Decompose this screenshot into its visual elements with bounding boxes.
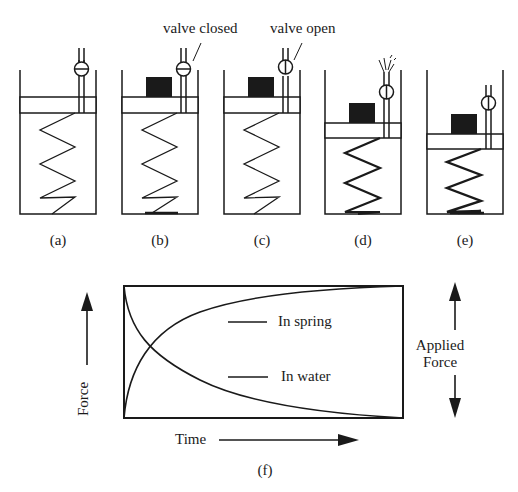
in-water-curve [124,286,403,418]
panel-c-container [224,43,302,214]
spring-icon [447,149,481,213]
spring-icon [345,138,380,214]
spring-icon [142,113,177,213]
in-spring-curve [124,286,403,418]
weight-block [248,77,274,97]
weight-block [451,114,477,134]
panel-b-container [122,43,201,214]
graph-caption: (f) [258,462,273,479]
graph-frame [124,286,403,418]
weight-block [349,103,375,123]
panel-e-container [427,70,503,214]
time-arrow-icon [219,434,359,446]
y-axis-label: Force [75,382,92,416]
applied-force-line2: Force [416,354,464,371]
applied-force-line1: Applied [416,337,464,354]
water-spray-icon [379,55,396,72]
panel-label-a: (a) [50,232,67,249]
weight-block [146,77,172,97]
panel-a-container [20,48,96,214]
panel-d-container [325,55,401,214]
spring-icon [244,113,279,214]
legend-in-spring: In spring [278,313,332,330]
force-arrow-icon [81,292,93,365]
x-axis-label: Time [175,431,206,448]
panel-label-c: (c) [254,232,271,249]
panel-label-b: (b) [151,232,169,249]
valve-closed-annotation: valve closed [163,20,238,36]
legend-in-water: In water [281,368,331,385]
spring-icon [40,113,75,214]
panel-label-d: (d) [354,232,372,249]
valve-open-annotation: valve open [270,20,335,36]
panel-label-e: (e) [457,232,474,249]
force-time-graph [124,286,403,418]
applied-force-label: Applied Force [416,337,464,371]
